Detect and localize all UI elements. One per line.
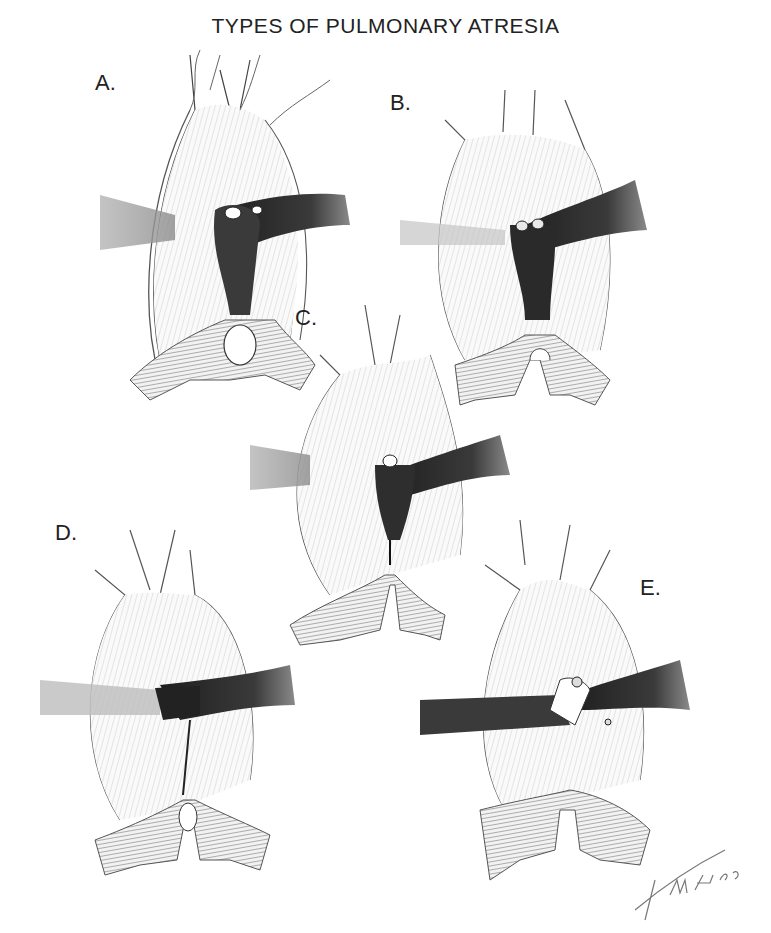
panel-e: E. [410,510,710,890]
signature-scribble-icon [625,845,765,925]
panel-d-illustration [35,510,325,890]
panel-e-illustration [410,510,710,890]
figure-title: TYPES OF PULMONARY ATRESIA [0,14,771,38]
panel-d: D. [35,510,325,890]
artist-signature: Finch '85 [625,845,765,925]
